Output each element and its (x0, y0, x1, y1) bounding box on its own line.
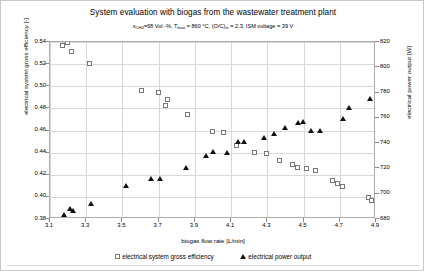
data-point-power (88, 201, 94, 206)
x-axis-tick-label: 3.1 (34, 222, 64, 228)
data-point-efficiency (65, 41, 70, 45)
gridline-vertical (231, 42, 232, 217)
y-axis-left-title: electrical system gross efficiency [-] (22, 0, 29, 147)
y-axis-left-tick-mark (45, 130, 49, 131)
data-point-power (148, 176, 154, 181)
data-point-power (123, 183, 129, 188)
y-axis-left-tick-mark (45, 196, 49, 197)
data-point-efficiency (87, 61, 92, 66)
chart-figure: System evaluation with biogas from the w… (0, 0, 424, 271)
y-axis-left-tick-mark (45, 107, 49, 108)
data-point-power (340, 116, 346, 121)
y-axis-left-tick-label: 0.52 (6, 60, 46, 66)
gridline-horizontal (50, 42, 374, 43)
y-axis-right-tick-label: 760 (380, 113, 420, 119)
gridline-vertical (122, 42, 123, 217)
x-axis-tick-mark (158, 218, 159, 222)
subtitle-sub-1: CH4 (136, 25, 144, 30)
y-axis-right-tick-label: 680 (380, 215, 420, 221)
y-axis-right-tick-label: 740 (380, 139, 420, 145)
gridline-vertical (86, 42, 87, 217)
data-point-efficiency (295, 165, 300, 170)
x-axis-tick-mark (194, 218, 195, 222)
data-point-power (261, 135, 267, 140)
y-axis-left-tick-label: 0.42 (6, 170, 46, 176)
x-axis-tick-label: 3.7 (143, 222, 173, 228)
subtitle-part-2: =68 Vol.-%, T (144, 23, 178, 29)
data-point-efficiency (335, 181, 340, 186)
y-axis-left-tick-label: 0.46 (6, 126, 46, 132)
y-axis-left-tick-label: 0.50 (6, 82, 46, 88)
gridline-vertical (159, 42, 160, 217)
x-axis-tick-mark (230, 218, 231, 222)
data-point-efficiency (304, 166, 309, 171)
y-axis-right-tick-label: 720 (380, 164, 420, 170)
gridline-vertical (267, 42, 268, 217)
y-axis-left-tick-label: 0.48 (6, 104, 46, 110)
data-point-efficiency (139, 88, 144, 93)
y-axis-right-tick-label: 780 (380, 88, 420, 94)
data-point-efficiency (163, 103, 168, 108)
gridline-horizontal (50, 64, 374, 65)
x-axis-tick-label: 3.9 (179, 222, 209, 228)
data-point-power (317, 128, 323, 133)
data-point-efficiency (165, 97, 170, 102)
gridline-horizontal (50, 86, 374, 87)
y-axis-left-tick-mark (45, 174, 49, 175)
subtitle-sub-2: max (177, 25, 185, 30)
y-axis-left-tick-mark (45, 152, 49, 153)
legend-divider (7, 265, 419, 266)
x-axis-tick-mark (303, 218, 304, 222)
data-point-power (224, 150, 230, 155)
data-point-power (308, 128, 314, 133)
x-axis-tick-mark (375, 218, 376, 222)
data-point-efficiency (69, 49, 74, 54)
data-point-efficiency (60, 43, 65, 48)
gridline-horizontal (50, 175, 374, 176)
y-axis-left-tick-label: 0.54 (6, 38, 46, 44)
data-point-efficiency (156, 90, 161, 95)
data-point-power (210, 149, 216, 154)
data-point-efficiency (210, 129, 215, 134)
y-axis-right-tick-label: 800 (380, 63, 420, 69)
chart-legend: electrical system gross efficiency elect… (1, 253, 424, 260)
x-axis-tick-label: 4.7 (324, 222, 354, 228)
data-point-power (271, 131, 277, 136)
x-axis-tick-mark (266, 218, 267, 222)
data-point-power (367, 96, 373, 101)
data-point-power (61, 212, 67, 217)
x-axis-tick-label: 4.5 (288, 222, 318, 228)
data-point-efficiency (221, 130, 226, 135)
y-axis-right-tick-mark (375, 142, 379, 143)
x-axis-tick-label: 4.1 (215, 222, 245, 228)
data-point-efficiency (185, 112, 190, 117)
data-point-efficiency (290, 162, 295, 167)
x-axis-tick-label: 3.5 (106, 222, 136, 228)
data-point-power (70, 208, 76, 213)
y-axis-right-tick-mark (375, 193, 379, 194)
y-axis-right-tick-mark (375, 41, 379, 42)
subtitle-part-3: = 860 °C, (O/C) (185, 23, 225, 29)
data-point-power (157, 176, 163, 181)
y-axis-right-tick-mark (375, 66, 379, 67)
x-axis-tick-label: 3.3 (70, 222, 100, 228)
y-axis-right-tick-mark (375, 167, 379, 168)
gridline-vertical (195, 42, 196, 217)
data-point-efficiency (277, 158, 282, 163)
data-point-power (346, 105, 352, 110)
y-axis-left-tick-label: 0.40 (6, 192, 46, 198)
y-axis-left-tick-mark (45, 85, 49, 86)
legend-label-power: electrical power output (248, 253, 311, 260)
data-point-power (203, 153, 209, 158)
open-square-icon (115, 254, 120, 259)
data-point-efficiency (252, 150, 257, 155)
gridline-horizontal (50, 108, 374, 109)
x-axis-title: biogas flow rate [L/min] (1, 237, 424, 244)
x-axis-tick-mark (339, 218, 340, 222)
y-axis-left-tick-label: 0.44 (6, 148, 46, 154)
y-axis-left-tick-label: 0.38 (6, 215, 46, 221)
data-point-power (300, 119, 306, 124)
legend-item-efficiency: electrical system gross efficiency (115, 253, 214, 260)
x-axis-tick-label: 4.3 (251, 222, 281, 228)
data-point-efficiency (330, 178, 335, 183)
